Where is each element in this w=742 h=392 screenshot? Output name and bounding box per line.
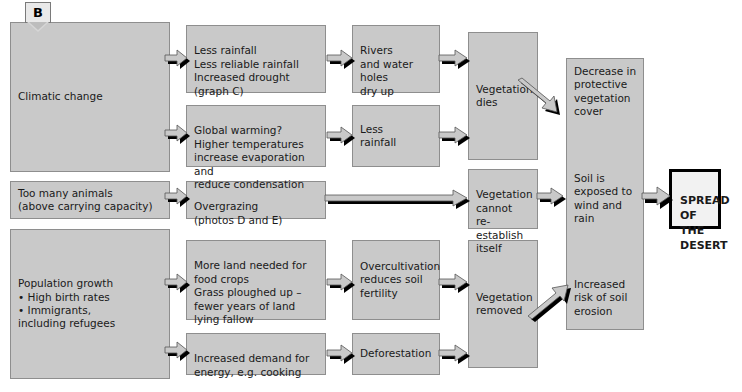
node-spread-of-desert-label: SPREAD OF THE DESERT bbox=[680, 193, 712, 253]
arrow-soil-exposed-to-spread-of-desert bbox=[645, 186, 677, 212]
arrow-population-growth-to-more-land bbox=[168, 272, 192, 296]
arrow-deforestation-to-vegetation-removed bbox=[442, 343, 474, 367]
node-deforestation-label: Deforestation bbox=[360, 347, 431, 360]
arrow-vegetation-cannot-reestablish-to-soil-exposed bbox=[540, 186, 572, 210]
figure-tag-label: B bbox=[33, 5, 43, 20]
arrow-too-many-animals-to-overgrazing bbox=[168, 188, 192, 212]
node-soil-exposed-label: Soil is exposed to wind and rain bbox=[574, 172, 632, 226]
arrow-global-warming-to-less-rainfall bbox=[330, 125, 358, 149]
node-too-many-animals[interactable]: Too many animals (above carrying capacit… bbox=[10, 181, 170, 219]
node-global-warming[interactable]: Global warming? Higher temperatures incr… bbox=[186, 105, 326, 167]
arrow-more-land-to-overcultivation bbox=[330, 272, 358, 296]
arrow-overgrazing-to-vegetation-cannot-reestablish bbox=[328, 188, 476, 214]
arrow-population-growth-to-increased-energy-demand bbox=[168, 340, 192, 364]
arrow-climatic-change-to-less-rainfall-group bbox=[168, 48, 192, 72]
node-too-many-animals-label: Too many animals (above carrying capacit… bbox=[18, 187, 153, 214]
node-deforestation[interactable]: Deforestation bbox=[352, 333, 440, 375]
node-overcultivation[interactable]: Overcultivation reduces soil fertility bbox=[352, 240, 440, 320]
node-less-rainfall-group[interactable]: Less rainfall Less reliable rainfall Inc… bbox=[186, 25, 326, 93]
arrow-climatic-change-to-global-warming bbox=[168, 123, 192, 147]
node-less-rainfall[interactable]: Less rainfall bbox=[352, 105, 440, 167]
node-population-growth-label: Population growth • High birth rates • I… bbox=[18, 277, 115, 331]
node-climatic-change[interactable]: Climatic change bbox=[10, 22, 170, 172]
node-overgrazing-label: Overgrazing (photos D and E) bbox=[194, 200, 318, 227]
node-rivers-dry-up[interactable]: Rivers and water holes dry up bbox=[352, 25, 440, 93]
arrow-vegetation-dies-to-decrease-protective-cover bbox=[522, 74, 582, 122]
figure-tag-b: B bbox=[25, 2, 51, 23]
arrow-vegetation-removed-to-increased-erosion-risk bbox=[525, 276, 585, 324]
flowchart-desertification: B Climatic change Too many animals (abov… bbox=[0, 0, 742, 392]
node-decrease-protective-cover-label: Decrease in protective vegetation cover bbox=[574, 65, 636, 119]
node-less-rainfall-label: Less rainfall bbox=[360, 123, 396, 150]
arrow-less-rainfall-group-to-rivers-dry-up bbox=[330, 48, 358, 72]
node-more-land-label: More land needed for food crops Grass pl… bbox=[194, 259, 318, 326]
arrow-overcultivation-to-vegetation-removed bbox=[442, 272, 474, 296]
node-vegetation-cannot-reestablish[interactable]: Vegetation cannot re-establish itself bbox=[468, 169, 538, 229]
node-overcultivation-label: Overcultivation reduces soil fertility bbox=[360, 260, 440, 300]
figure-tag-pointer bbox=[27, 22, 49, 32]
node-rivers-dry-up-label: Rivers and water holes dry up bbox=[360, 44, 432, 98]
node-less-rainfall-group-label: Less rainfall Less reliable rainfall Inc… bbox=[194, 44, 318, 98]
node-more-land[interactable]: More land needed for food crops Grass pl… bbox=[186, 240, 326, 320]
arrow-increased-energy-demand-to-deforestation bbox=[330, 343, 358, 367]
node-increased-energy-demand[interactable]: Increased demand for energy, e.g. cookin… bbox=[186, 333, 326, 375]
node-vegetation-cannot-reestablish-label: Vegetation cannot re-establish itself bbox=[476, 188, 530, 255]
node-climatic-change-label: Climatic change bbox=[18, 90, 103, 103]
node-population-growth[interactable]: Population growth • High birth rates • I… bbox=[10, 229, 170, 379]
node-increased-energy-demand-label: Increased demand for energy, e.g. cookin… bbox=[194, 352, 318, 379]
arrow-less-rainfall-to-vegetation-dies bbox=[442, 125, 474, 149]
node-global-warming-label: Global warming? Higher temperatures incr… bbox=[194, 124, 318, 191]
arrow-rivers-dry-up-to-vegetation-dies bbox=[442, 48, 474, 72]
